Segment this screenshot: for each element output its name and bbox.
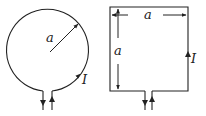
arrow-up-icon — [149, 96, 155, 102]
arrow-up-icon — [49, 96, 55, 102]
circle-wire — [7, 9, 89, 91]
diagram-canvas: a I a a I — [0, 0, 206, 116]
height-label: a — [114, 43, 122, 58]
current-label: I — [190, 51, 197, 66]
square-loop: a a I — [110, 7, 197, 110]
radius-arrow-icon — [50, 24, 78, 52]
arrow-down-icon — [142, 100, 148, 106]
circular-loop: a I — [7, 9, 89, 110]
current-label: I — [81, 72, 88, 87]
arrow-down-icon — [40, 100, 46, 106]
radius-label: a — [46, 30, 54, 45]
width-label: a — [144, 7, 152, 22]
